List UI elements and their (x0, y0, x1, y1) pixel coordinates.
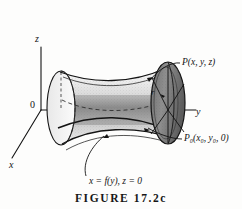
radius-label: r (151, 88, 154, 97)
y-axis-label: y (196, 107, 200, 117)
x-axis (12, 110, 41, 158)
point-p0-label: P₀(x₀, y₀, 0) (184, 134, 229, 144)
point-p-label: P(x, y, z) (182, 58, 215, 68)
solid-of-revolution (47, 60, 185, 155)
figure-container: z 0 y x r P(x, y, z) P₀(x₀, y₀, 0) x = f… (0, 0, 242, 209)
z-axis-label: z (35, 34, 39, 44)
figure-caption: FIGURE 17.2c (75, 192, 167, 204)
origin-label: 0 (30, 100, 35, 110)
generating-curve-label: x = f(y), z = 0 (89, 177, 142, 187)
figure-caption-container: FIGURE 17.2c (0, 188, 242, 206)
leader-generating-curve (85, 136, 104, 176)
lower-inner-curve (66, 135, 170, 150)
x-axis-label: x (9, 160, 13, 170)
